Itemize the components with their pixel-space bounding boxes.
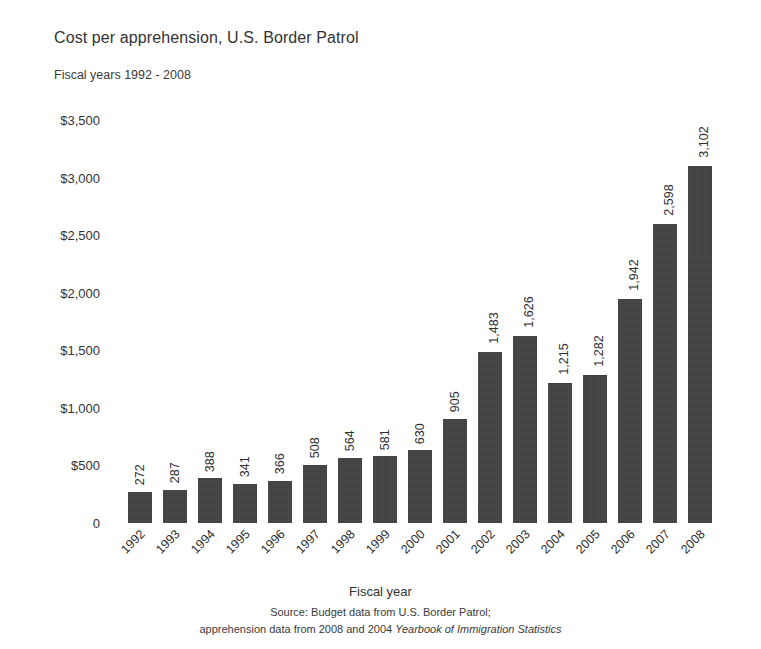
bar <box>163 490 187 523</box>
bar-value-label: 508 <box>303 437 327 459</box>
x-axis-title: Fiscal year <box>0 584 761 599</box>
bar <box>373 456 397 523</box>
bar <box>198 478 222 523</box>
bar-slot: 341 <box>233 120 268 523</box>
bar-value-label: 1,282 <box>583 333 607 369</box>
bar-slot: 272 <box>128 120 163 523</box>
bar-slot: 564 <box>338 120 373 523</box>
y-axis-tick-label: $2,000 <box>20 285 100 300</box>
bar-slot: 2,598 <box>653 120 688 523</box>
bar-value-label: 1,215 <box>548 341 572 377</box>
bar <box>618 299 642 523</box>
bar <box>478 352 502 523</box>
y-axis-tick-label: $2,500 <box>20 228 100 243</box>
y-axis-tick-label: $500 <box>20 458 100 473</box>
bar-value-label: 630 <box>408 423 432 445</box>
bar-slot: 905 <box>443 120 478 523</box>
bar-slot: 1,483 <box>478 120 513 523</box>
bar-slot: 1,282 <box>583 120 618 523</box>
source-note-line-2: apprehension data from 2008 and 2004 Yea… <box>0 623 761 635</box>
bar <box>443 419 467 523</box>
bar <box>653 224 677 523</box>
bar-slot: 1,626 <box>513 120 548 523</box>
bar <box>408 450 432 523</box>
bar-value-label: 1,626 <box>513 294 537 330</box>
source-note-line-2-text: apprehension data from 2008 and 2004 <box>199 623 395 635</box>
bar-value-label: 905 <box>443 391 467 413</box>
source-note-line-1: Source: Budget data from U.S. Border Pat… <box>0 606 761 618</box>
bar-value-label: 564 <box>338 430 362 452</box>
bar <box>338 458 362 523</box>
source-note-publication-title: Yearbook of Immigration Statistics <box>395 623 561 635</box>
y-axis-tick-label: $1,500 <box>20 343 100 358</box>
bar-slot: 287 <box>163 120 198 523</box>
y-axis-tick-label: $1,000 <box>20 400 100 415</box>
bar <box>128 492 152 523</box>
chart-title: Cost per apprehension, U.S. Border Patro… <box>54 29 359 47</box>
bar <box>303 465 327 523</box>
bar-slot: 388 <box>198 120 233 523</box>
bar <box>268 481 292 523</box>
y-axis-tick-label: 0 <box>20 516 100 531</box>
bar-slot: 1,942 <box>618 120 653 523</box>
bar-value-label: 366 <box>268 453 292 475</box>
bar-chart-figure: Cost per apprehension, U.S. Border Patro… <box>0 0 761 649</box>
bar-value-label: 1,942 <box>618 257 642 293</box>
x-axis-tick-labels: 1992199319941995199619971998199920002001… <box>128 525 728 585</box>
bar <box>583 375 607 523</box>
bar <box>233 484 257 523</box>
bar <box>513 336 537 523</box>
bars-container: 2722873883413665085645816309051,4831,626… <box>128 120 728 523</box>
bar-value-label: 388 <box>198 451 222 473</box>
bar-value-label: 1,483 <box>478 310 502 346</box>
bar-value-label: 287 <box>163 462 187 484</box>
y-axis-tick-label: $3,000 <box>20 170 100 185</box>
bar-slot: 581 <box>373 120 408 523</box>
bar-value-label: 2,598 <box>653 182 677 218</box>
y-axis-tick-label: $3,500 <box>20 113 100 128</box>
bar <box>548 383 572 523</box>
bar-value-label: 581 <box>373 429 397 451</box>
bar-slot: 508 <box>303 120 338 523</box>
bar <box>688 166 712 523</box>
bar-slot: 1,215 <box>548 120 583 523</box>
bar-value-label: 272 <box>128 464 152 486</box>
bar-slot: 3,102 <box>688 120 723 523</box>
bar-value-label: 341 <box>233 456 257 478</box>
bar-slot: 630 <box>408 120 443 523</box>
bar-slot: 366 <box>268 120 303 523</box>
chart-subtitle: Fiscal years 1992 - 2008 <box>54 68 191 82</box>
bar-value-label: 3,102 <box>688 124 712 160</box>
y-axis-tick-labels: $3,500$3,000$2,500$2,000$1,500$1,000$500… <box>9 120 100 523</box>
